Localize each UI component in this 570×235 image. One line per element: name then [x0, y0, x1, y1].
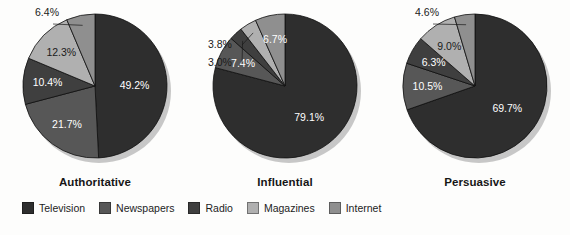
panel-title-authoritative: Authoritative [0, 176, 190, 188]
legend-item: Internet [329, 202, 382, 214]
legend-swatch-icon [329, 202, 341, 214]
legend-label: Magazines [264, 202, 315, 214]
pie-chart-authoritative: 49.2%21.7%10.4%12.3%6.4% [0, 0, 190, 176]
legend-label: Radio [205, 202, 232, 214]
legend-item: Magazines [247, 202, 315, 214]
slice-value-label: 9.0% [437, 40, 461, 52]
pie-chart-figure: 49.2%21.7%10.4%12.3%6.4% Authoritative 7… [0, 0, 570, 235]
legend-swatch-icon [247, 202, 259, 214]
panel-title-persuasive: Persuasive [380, 176, 570, 188]
slice-value-label: 49.2% [120, 79, 150, 91]
chart-legend: TelevisionNewspapersRadioMagazinesIntern… [22, 202, 395, 214]
slice-value-label: 79.1% [294, 111, 324, 123]
slice-value-label: 12.3% [46, 46, 76, 58]
slice-value-label: 10.4% [33, 76, 63, 88]
pie-panel-influential: 79.1%7.4%3.0%3.8%6.7% Influential [190, 0, 380, 200]
pie-panel-persuasive: 69.7%10.5%6.3%9.0%4.6% Persuasive [380, 0, 570, 200]
slice-callout-label: 3.0% [208, 56, 232, 68]
legend-swatch-icon [22, 202, 34, 214]
pie-panel-authoritative: 49.2%21.7%10.4%12.3%6.4% Authoritative [0, 0, 190, 200]
slice-callout-label: 6.4% [35, 6, 59, 18]
pie-chart-persuasive: 69.7%10.5%6.3%9.0%4.6% [380, 0, 570, 176]
slice-value-label: 7.4% [231, 57, 255, 69]
legend-swatch-icon [99, 202, 111, 214]
slice-callout-label: 4.6% [415, 6, 439, 18]
slice-value-label: 21.7% [52, 118, 82, 130]
slice-callout-label: 3.8% [208, 38, 232, 50]
legend-label: Television [39, 202, 85, 214]
panel-title-influential: Influential [190, 176, 380, 188]
legend-item: Radio [188, 202, 232, 214]
legend-item: Television [22, 202, 85, 214]
slice-value-label: 10.5% [413, 80, 443, 92]
slice-value-label: 6.7% [263, 33, 287, 45]
legend-item: Newspapers [99, 202, 174, 214]
slice-value-label: 69.7% [492, 102, 522, 114]
slice-value-label: 6.3% [422, 56, 446, 68]
pie-chart-influential: 79.1%7.4%3.0%3.8%6.7% [190, 0, 380, 176]
legend-swatch-icon [188, 202, 200, 214]
legend-label: Internet [346, 202, 382, 214]
legend-label: Newspapers [116, 202, 174, 214]
